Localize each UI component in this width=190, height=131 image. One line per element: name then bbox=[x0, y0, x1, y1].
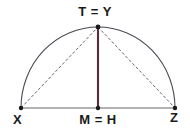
vertex-label-left: X bbox=[13, 113, 22, 126]
vertex-point-apex bbox=[96, 25, 101, 30]
chord-right-dashed bbox=[98, 27, 175, 108]
vertex-point-left bbox=[19, 106, 23, 110]
vertex-label-midpoint: M = H bbox=[79, 113, 117, 126]
geometry-figure: T = Y M = H X Z bbox=[0, 0, 190, 131]
chord-left-dashed bbox=[21, 27, 98, 108]
vertex-label-apex: T = Y bbox=[78, 5, 112, 18]
vertex-point-midpoint bbox=[96, 106, 100, 110]
vertex-label-right: Z bbox=[170, 111, 178, 124]
